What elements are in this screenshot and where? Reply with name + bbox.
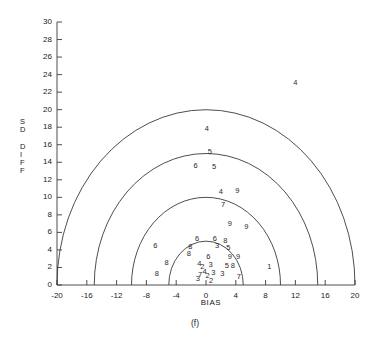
y-axis-tick-label: 20 (26, 106, 52, 114)
data-point: 5 (208, 148, 212, 156)
data-point: 8 (231, 262, 235, 270)
y-axis-tick-label: 30 (26, 18, 52, 26)
y-axis-tick-label: 8 (26, 211, 52, 219)
x-axis-tick-label: 20 (340, 292, 370, 300)
y-axis-tick-label: 12 (26, 176, 52, 184)
reference-arc (94, 154, 318, 285)
data-point: 3 (215, 243, 219, 251)
y-axis-tick-label: 22 (26, 88, 52, 96)
data-point: 5 (212, 163, 216, 171)
data-point: 9 (235, 187, 239, 195)
figure-caption: (f) (165, 318, 225, 328)
data-point: 6 (193, 162, 197, 170)
x-axis-tick-label: 12 (280, 292, 310, 300)
y-axis-tick-label: 14 (26, 158, 52, 166)
figure-panel: S D D I F F 024681012141618202224262830 … (0, 0, 377, 339)
plot-area (0, 0, 377, 339)
data-point: 5 (225, 262, 229, 270)
y-axis-tick-label: 10 (26, 193, 52, 201)
x-axis-title: BIAS (181, 298, 241, 307)
data-point: 4 (293, 80, 297, 88)
data-point: 9 (228, 253, 232, 261)
data-point: 3 (196, 275, 200, 283)
data-point: 8 (155, 270, 159, 278)
data-point: 1 (267, 264, 271, 272)
data-point: 4 (205, 125, 209, 133)
data-point: 2 (209, 277, 213, 285)
data-point: 9 (236, 253, 240, 261)
data-point: 8 (164, 259, 168, 267)
data-point: 9 (244, 223, 248, 231)
x-axis-tick-label: -12 (102, 292, 132, 300)
y-axis-tick-label: 2 (26, 263, 52, 271)
x-axis-tick-label: -16 (72, 292, 102, 300)
y-axis-tick-label: 28 (26, 36, 52, 44)
x-axis-tick-label: 8 (251, 292, 281, 300)
data-point: 7 (221, 201, 225, 209)
y-axis-tick-label: 0 (26, 281, 52, 289)
x-axis-tick-label: 16 (310, 292, 340, 300)
data-point: 6 (195, 236, 199, 244)
y-axis-tick-label: 4 (26, 246, 52, 254)
data-point: 8 (187, 251, 191, 259)
data-point: 6 (153, 242, 157, 250)
data-point: 7 (237, 273, 241, 281)
x-axis-tick-label: -8 (131, 292, 161, 300)
y-axis-tick-label: 24 (26, 71, 52, 79)
y-axis-tick-label: 16 (26, 141, 52, 149)
y-axis-tick-label: 6 (26, 228, 52, 236)
data-point: 9 (228, 220, 232, 228)
data-point: 5 (226, 244, 230, 252)
y-axis-tick-label: 26 (26, 53, 52, 61)
x-axis-tick-label: -20 (42, 292, 72, 300)
y-axis-tick-label: 18 (26, 123, 52, 131)
data-point: 4 (219, 188, 223, 196)
data-point: 3 (220, 270, 224, 278)
